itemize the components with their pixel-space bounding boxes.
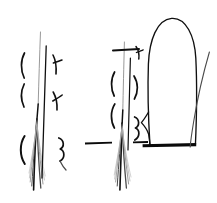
figure-canvas <box>0 0 217 203</box>
baseline-segment-left <box>85 143 112 144</box>
dome-baseline <box>143 145 197 146</box>
diagram-svg <box>0 0 217 203</box>
middle-shaft-waist <box>122 110 123 124</box>
